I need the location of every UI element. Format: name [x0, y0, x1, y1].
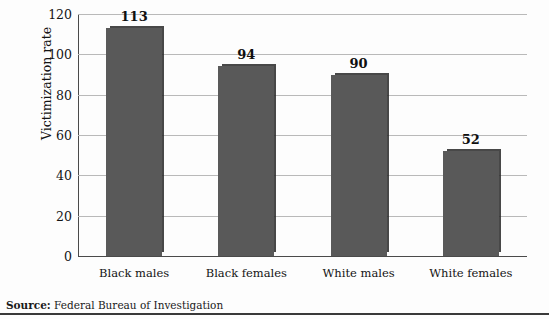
bar [106, 28, 162, 256]
x-category-label: Black males [74, 266, 194, 280]
axis-baseline [78, 256, 527, 257]
y-tick-label: 40 [30, 168, 72, 183]
bar-value-label: 90 [311, 56, 407, 71]
y-tick-label: 20 [30, 208, 72, 223]
source-label: Source: [6, 299, 51, 311]
plot-area: 113949052 [78, 14, 527, 256]
x-category-label: White females [411, 266, 531, 280]
bottom-rule [0, 313, 549, 315]
x-category-label: White males [299, 266, 419, 280]
bar [218, 66, 274, 256]
chart-figure: Victimization rate 020406080100120 11394… [0, 0, 549, 319]
source-note: Source: Federal Bureau of Investigation [6, 299, 223, 311]
source-text: Federal Bureau of Investigation [54, 299, 223, 311]
y-axis-title: Victimization rate [39, 9, 54, 159]
bar-value-label: 52 [423, 132, 519, 147]
bar [443, 151, 499, 256]
bar [331, 75, 387, 257]
x-category-label: Black females [186, 266, 306, 280]
y-tick-label: 0 [30, 249, 72, 264]
bar-value-label: 94 [198, 47, 294, 62]
bar-value-label: 113 [86, 9, 182, 24]
